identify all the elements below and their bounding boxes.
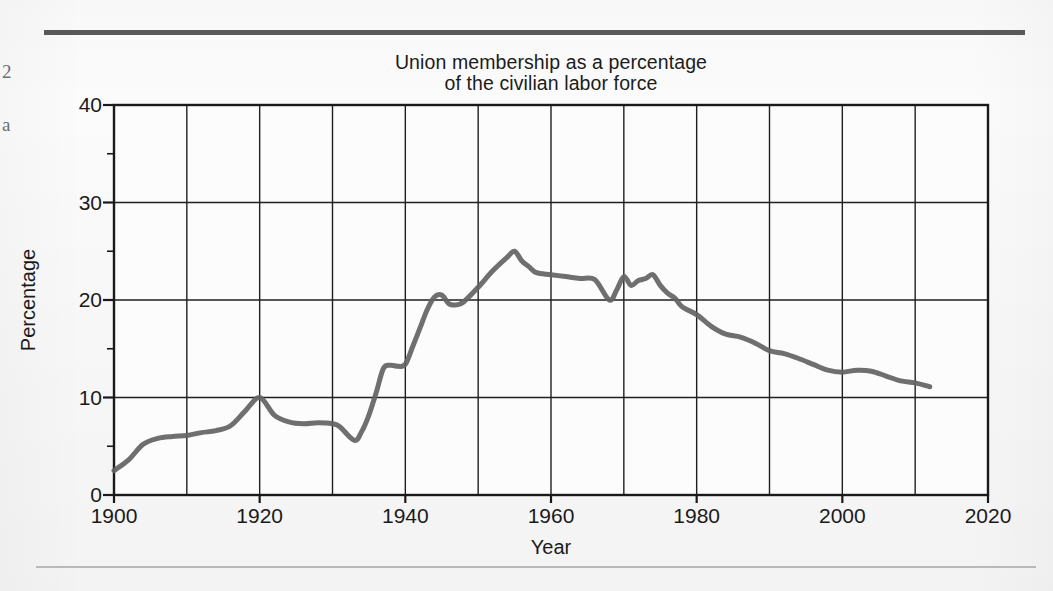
x-tick-label: 1980: [673, 504, 720, 528]
top-horizontal-rule: [44, 30, 1025, 35]
y-tick-label: 30: [79, 191, 102, 215]
chart-title-line-2: of the civilian labor force: [114, 73, 988, 94]
chart-title: Union membership as a percentage of the …: [114, 52, 988, 94]
x-tick-label: 2020: [965, 504, 1012, 528]
x-tick-label: 1920: [236, 504, 283, 528]
x-tick-label: 1900: [91, 504, 138, 528]
plot-area: 0102030401900192019401960198020002020: [114, 105, 988, 495]
y-tick-label: 10: [79, 386, 102, 410]
y-tick-label: 20: [79, 288, 102, 312]
y-axis-ticks: [103, 105, 114, 495]
x-tick-label: 2000: [819, 504, 866, 528]
bottom-horizontal-rule: [36, 566, 1036, 568]
x-tick-label: 1940: [382, 504, 429, 528]
y-axis-label: Percentage: [17, 249, 40, 351]
x-axis-ticks: [114, 495, 988, 503]
plot-svg: [114, 105, 988, 495]
y-tick-label: 40: [79, 93, 102, 117]
chart-title-line-1: Union membership as a percentage: [114, 52, 988, 73]
page-canvas: 2 a Union membership as a percentage of …: [0, 0, 1053, 591]
x-tick-label: 1960: [528, 504, 575, 528]
x-axis-label: Year: [531, 536, 571, 559]
figure: Union membership as a percentage of the …: [0, 40, 1053, 550]
